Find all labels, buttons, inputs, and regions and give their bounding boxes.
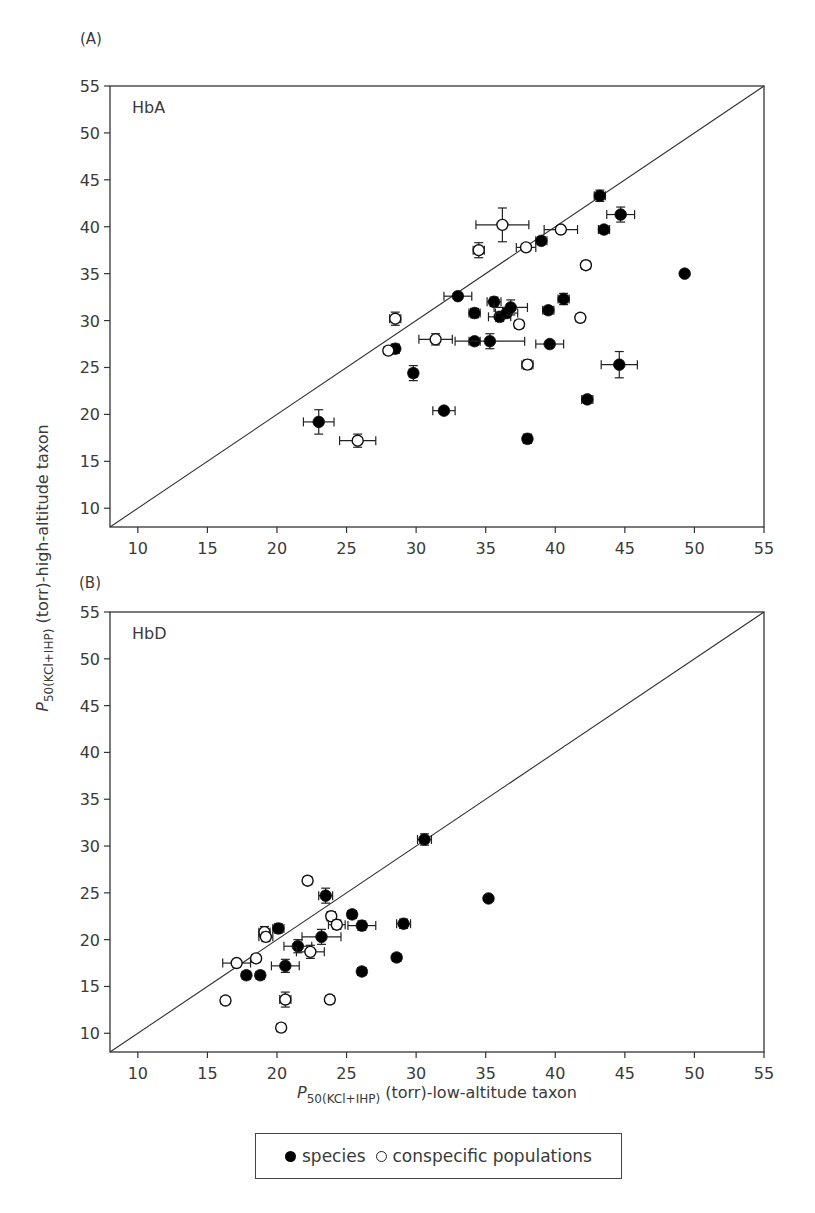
filled-marker — [543, 304, 555, 316]
data-point — [594, 190, 606, 202]
y-tick-label: 45 — [80, 697, 100, 716]
data-point — [469, 307, 481, 319]
data-point — [543, 304, 555, 316]
filled-marker — [273, 923, 285, 935]
x-tick-label: 15 — [197, 539, 217, 558]
filled-marker — [679, 268, 691, 280]
open-marker — [302, 875, 313, 886]
data-point — [280, 992, 291, 1007]
y-tick-label: 25 — [80, 358, 100, 377]
y-tick-label: 20 — [80, 931, 100, 950]
x-tick-label: 40 — [545, 539, 565, 558]
filled-marker — [544, 338, 556, 350]
data-point — [391, 952, 403, 964]
y-tick-label: 55 — [80, 77, 100, 96]
data-point — [302, 875, 313, 886]
data-point — [251, 953, 262, 964]
x-tick-label: 10 — [128, 539, 148, 558]
data-point — [383, 345, 394, 356]
open-marker — [305, 946, 316, 957]
data-point — [598, 224, 610, 236]
x-tick-label: 25 — [336, 1064, 356, 1083]
identity-line — [110, 86, 764, 527]
data-point — [522, 359, 533, 370]
x-tick-label: 20 — [267, 539, 287, 558]
x-tick-label: 30 — [406, 539, 426, 558]
filled-marker — [594, 190, 606, 202]
x-tick-label: 30 — [406, 1064, 426, 1083]
data-point — [408, 366, 420, 381]
filled-circle-icon — [285, 1151, 296, 1162]
data-point — [302, 929, 341, 944]
data-point — [679, 268, 691, 280]
y-tick-label: 15 — [80, 452, 100, 471]
open-marker — [324, 994, 335, 1005]
panel-title: HbD — [132, 624, 167, 643]
data-point — [348, 920, 376, 932]
data-point — [324, 994, 335, 1005]
data-point — [433, 405, 455, 417]
y-tick-label: 30 — [80, 837, 100, 856]
filled-marker — [408, 367, 420, 379]
y-tick-label: 50 — [80, 124, 100, 143]
legend: species conspecific populations — [255, 1133, 622, 1179]
data-point — [276, 1022, 287, 1033]
open-marker — [522, 359, 533, 370]
data-point — [319, 888, 333, 903]
y-tick-label: 20 — [80, 405, 100, 424]
open-marker — [497, 219, 508, 230]
x-tick-label: 20 — [267, 1064, 287, 1083]
y-tick-label: 15 — [80, 977, 100, 996]
filled-marker — [598, 224, 610, 236]
panel-a-label: (A) — [80, 30, 102, 48]
data-point — [223, 958, 251, 969]
filled-marker — [356, 966, 368, 978]
open-marker — [580, 260, 591, 271]
filled-marker — [419, 834, 431, 846]
data-point — [220, 995, 231, 1006]
y-axis-title-rest: (torr)-high-altitude taxon — [33, 424, 52, 628]
filled-marker — [254, 969, 266, 981]
filled-marker — [484, 335, 496, 347]
filled-marker — [581, 394, 593, 406]
filled-marker — [613, 359, 625, 371]
x-tick-label: 55 — [754, 539, 774, 558]
y-axis-title: P50(KCl+IHP) (torr)-high-altitude taxon — [33, 424, 56, 711]
y-tick-label: 50 — [80, 650, 100, 669]
data-point — [273, 923, 285, 935]
y-tick-label: 55 — [80, 603, 100, 622]
filled-marker — [280, 960, 292, 972]
data-point — [419, 334, 452, 345]
open-marker — [251, 953, 262, 964]
data-point — [444, 290, 472, 302]
open-circle-icon — [376, 1151, 387, 1162]
figure-canvas: (A) 101520253035404550551015202530354045… — [0, 0, 815, 1213]
filled-marker — [536, 235, 548, 247]
panel-b-plot: 1015202530354045505510152025303540455055… — [80, 603, 775, 1083]
filled-marker — [316, 931, 328, 943]
open-marker — [383, 345, 394, 356]
open-marker — [352, 435, 363, 446]
x-tick-label: 25 — [336, 539, 356, 558]
y-tick-label: 35 — [80, 790, 100, 809]
x-tick-label: 40 — [545, 1064, 565, 1083]
data-point — [522, 433, 534, 445]
x-tick-label: 50 — [684, 1064, 704, 1083]
filled-marker — [320, 890, 332, 902]
y-tick-label: 45 — [80, 171, 100, 190]
open-marker — [276, 1022, 287, 1033]
open-marker — [430, 334, 441, 345]
y-tick-label: 10 — [80, 499, 100, 518]
x-axis-title-rest: (torr)-low-altitude taxon — [380, 1083, 577, 1102]
y-tick-label: 40 — [80, 743, 100, 762]
series-species — [303, 190, 690, 445]
filled-marker — [438, 405, 450, 417]
data-point — [544, 224, 577, 235]
legend-label-conspecific: conspecific populations — [393, 1146, 592, 1166]
x-tick-label: 15 — [197, 1064, 217, 1083]
data-point — [356, 966, 368, 978]
svg-text:P50(KCl+IHP) (torr)-high-altit: P50(KCl+IHP) (torr)-high-altitude taxon — [33, 424, 56, 711]
data-point — [397, 918, 411, 930]
data-point — [558, 293, 570, 305]
open-marker — [231, 958, 242, 969]
